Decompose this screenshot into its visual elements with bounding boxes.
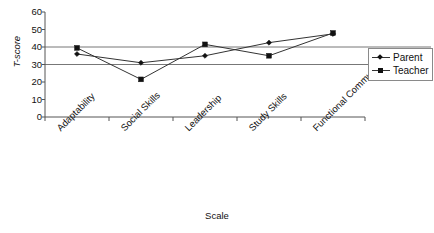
legend-label-teacher: Teacher <box>391 65 429 76</box>
legend-item-parent: Parent <box>371 51 429 64</box>
x-axis-category-label: Social Skills <box>119 90 162 133</box>
teacher-series-marker-icon <box>371 65 391 76</box>
legend-item-teacher: Teacher <box>371 64 429 77</box>
x-axis-title: Scale <box>172 210 262 221</box>
x-axis-category-label: Adaptability <box>55 91 97 133</box>
chart-legend: Parent Teacher <box>368 48 433 81</box>
x-axis-category-label: Study Skills <box>247 91 289 133</box>
legend-label-parent: Parent <box>391 52 422 63</box>
x-axis-category-label: Leadership <box>183 93 223 133</box>
t-score-line-chart: 0102030405060 T-score AdaptabilitySocial… <box>0 0 434 233</box>
parent-series-marker-icon <box>371 52 391 63</box>
x-axis-category-labels: AdaptabilitySocial SkillsLeadershipStudy… <box>0 0 434 233</box>
